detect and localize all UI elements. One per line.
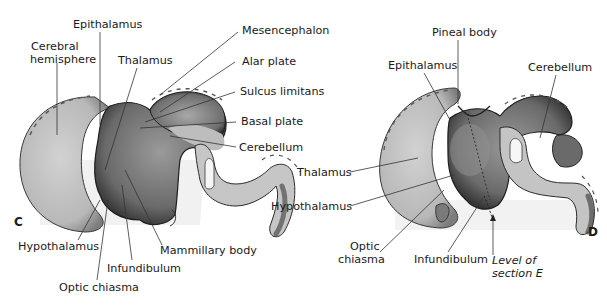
- label-optic-chiasma-c: Optic chiasma: [59, 281, 139, 294]
- label-hypothalamus-d: Hypothalamus: [271, 200, 352, 213]
- label-cerebral-hemisphere-line2: hemisphere: [30, 53, 96, 66]
- label-optic-chiasma-d-line2: chiasma: [338, 253, 385, 266]
- panel-c-drawing: [20, 89, 300, 237]
- label-thalamus-c: Thalamus: [118, 54, 173, 67]
- label-basal-plate: Basal plate: [241, 115, 303, 128]
- label-cerebral-hemisphere-line1: Cerebral: [31, 40, 79, 53]
- panel-letter-c: C: [14, 216, 23, 229]
- label-cerebellum-d: Cerebellum: [528, 61, 592, 74]
- label-epithalamus-c: Epithalamus: [73, 18, 142, 31]
- label-level-of-section-line1: Level of: [492, 254, 536, 267]
- label-level-of-section-line2: section E: [492, 267, 543, 280]
- embryonic-brain-diagram: Epithalamus Cerebral hemisphere Thalamus…: [0, 0, 607, 308]
- label-optic-chiasma-d-line1: Optic: [350, 240, 375, 253]
- label-mammillary-body: Mammillary body: [160, 244, 257, 257]
- label-mesencephalon: Mesencephalon: [242, 24, 329, 37]
- panel-letter-d: D: [588, 226, 598, 239]
- label-hypothalamus-c: Hypothalamus: [18, 240, 99, 253]
- label-pineal-body: Pineal body: [432, 26, 497, 39]
- label-thalamus-d: Thalamus: [297, 166, 352, 179]
- label-infundibulum-d: Infundibulum: [414, 253, 488, 266]
- label-sulcus-limitans: Sulcus limitans: [240, 85, 324, 98]
- panel-d-drawing: [380, 88, 598, 235]
- label-infundibulum-c: Infundibulum: [107, 262, 181, 275]
- label-epithalamus-d: Epithalamus: [388, 59, 457, 72]
- label-alar-plate: Alar plate: [242, 55, 296, 68]
- label-cerebellum-c: Cerebellum: [239, 141, 303, 154]
